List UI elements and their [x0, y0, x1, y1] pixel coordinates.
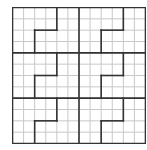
grid-cell[interactable] [68, 110, 79, 121]
grid-cell[interactable] [79, 8, 90, 19]
grid-cell[interactable] [101, 110, 112, 121]
grid-cell[interactable] [79, 132, 90, 143]
grid-cell[interactable] [101, 121, 112, 132]
grid-cell[interactable] [79, 76, 90, 87]
grid-cell[interactable] [112, 87, 123, 98]
grid-cell[interactable] [13, 8, 24, 19]
grid-cell[interactable] [101, 132, 112, 143]
grid-cell[interactable] [90, 98, 101, 109]
grid-cell[interactable] [46, 8, 57, 19]
grid-cell[interactable] [68, 64, 79, 75]
grid-cell[interactable] [90, 64, 101, 75]
grid-cell[interactable] [112, 42, 123, 53]
grid-cell[interactable] [134, 19, 145, 30]
grid-cell[interactable] [13, 98, 24, 109]
grid-cell[interactable] [123, 8, 134, 19]
grid-cell[interactable] [24, 76, 35, 87]
grid-cell[interactable] [46, 42, 57, 53]
grid-cell[interactable] [24, 53, 35, 64]
grid-cell[interactable] [134, 110, 145, 121]
grid-cell[interactable] [46, 19, 57, 30]
grid-cell[interactable] [112, 98, 123, 109]
grid-cell[interactable] [101, 42, 112, 53]
puzzle-grid[interactable] [12, 7, 146, 148]
grid-cell[interactable] [24, 42, 35, 53]
grid-cell[interactable] [134, 64, 145, 75]
grid-cell[interactable] [57, 76, 68, 87]
grid-cell[interactable] [13, 110, 24, 121]
grid-cell[interactable] [57, 42, 68, 53]
grid-cell[interactable] [134, 76, 145, 87]
grid-cell[interactable] [57, 19, 68, 30]
grid-cell[interactable] [101, 87, 112, 98]
grid-cell[interactable] [68, 42, 79, 53]
grid-cell[interactable] [79, 53, 90, 64]
grid-cell[interactable] [46, 110, 57, 121]
grid-cell[interactable] [35, 19, 46, 30]
grid-cell[interactable] [13, 19, 24, 30]
grid-cell[interactable] [35, 30, 46, 41]
grid-cell[interactable] [68, 19, 79, 30]
grid-cell[interactable] [79, 30, 90, 41]
grid-cell[interactable] [79, 98, 90, 109]
grid-cell[interactable] [35, 76, 46, 87]
grid-cell[interactable] [24, 87, 35, 98]
grid-cell[interactable] [13, 53, 24, 64]
grid-cell[interactable] [57, 53, 68, 64]
grid-cell[interactable] [90, 76, 101, 87]
grid-cell[interactable] [35, 8, 46, 19]
grid-cell[interactable] [134, 87, 145, 98]
grid-cell[interactable] [57, 30, 68, 41]
grid-cell[interactable] [134, 121, 145, 132]
grid-cell[interactable] [79, 87, 90, 98]
grid-cell[interactable] [57, 98, 68, 109]
grid-cell[interactable] [134, 42, 145, 53]
grid-cell[interactable] [35, 42, 46, 53]
grid-cell[interactable] [57, 8, 68, 19]
grid-cell[interactable] [57, 132, 68, 143]
grid-cell[interactable] [68, 98, 79, 109]
grid-cell[interactable] [24, 98, 35, 109]
grid-cell[interactable] [90, 121, 101, 132]
grid-cell[interactable] [90, 19, 101, 30]
grid-cell[interactable] [68, 121, 79, 132]
grid-cell[interactable] [46, 53, 57, 64]
grid-cell[interactable] [123, 19, 134, 30]
grid-cell[interactable] [68, 30, 79, 41]
grid-cell[interactable] [35, 53, 46, 64]
grid-cell[interactable] [46, 98, 57, 109]
grid-cell[interactable] [90, 30, 101, 41]
grid-cell[interactable] [101, 30, 112, 41]
grid-cell[interactable] [13, 42, 24, 53]
grid-cell[interactable] [123, 121, 134, 132]
grid-cell[interactable] [101, 64, 112, 75]
grid-cell[interactable] [112, 53, 123, 64]
grid-cell[interactable] [57, 87, 68, 98]
grid-cell[interactable] [123, 64, 134, 75]
grid-cell[interactable] [101, 19, 112, 30]
grid-cell[interactable] [123, 110, 134, 121]
grid-cell[interactable] [68, 8, 79, 19]
grid-cell[interactable] [134, 98, 145, 109]
grid-cell[interactable] [134, 30, 145, 41]
grid-cell[interactable] [46, 76, 57, 87]
grid-cell[interactable] [101, 76, 112, 87]
grid-cell[interactable] [68, 87, 79, 98]
grid-cell[interactable] [46, 87, 57, 98]
grid-cell[interactable] [24, 64, 35, 75]
grid-cell[interactable] [112, 76, 123, 87]
grid-cell[interactable] [123, 132, 134, 143]
grid-cell[interactable] [79, 110, 90, 121]
grid-cell[interactable] [24, 110, 35, 121]
grid-cell[interactable] [35, 121, 46, 132]
grid-cell[interactable] [46, 64, 57, 75]
grid-cell[interactable] [35, 132, 46, 143]
grid-cell[interactable] [13, 30, 24, 41]
grid-cell[interactable] [112, 132, 123, 143]
grid-cell[interactable] [68, 132, 79, 143]
grid-cell[interactable] [90, 132, 101, 143]
grid-cell[interactable] [35, 98, 46, 109]
grid-cell[interactable] [112, 64, 123, 75]
grid-cell[interactable] [112, 110, 123, 121]
grid-cell[interactable] [134, 132, 145, 143]
